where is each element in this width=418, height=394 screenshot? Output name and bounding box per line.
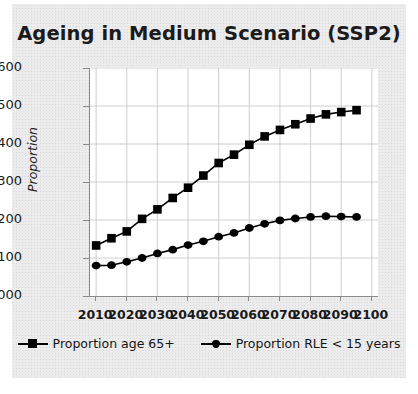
- chart-title: Ageing in Medium Scenario (SSP2): [0, 22, 418, 45]
- data-point-diamond: [291, 215, 300, 223]
- data-point-diamond: [306, 213, 315, 221]
- data-point-square: [276, 126, 285, 135]
- data-point-square: [230, 150, 239, 159]
- data-point-diamond: [92, 262, 101, 270]
- legend-label: Proportion RLE < 15 years: [236, 336, 401, 351]
- chart-figure: Ageing in Medium Scenario (SSP2) Proport…: [0, 0, 418, 394]
- plot-svg: [90, 68, 378, 296]
- data-point-square: [260, 132, 269, 141]
- data-point-diamond: [352, 213, 361, 221]
- y-tick-label: 0.000: [0, 287, 22, 302]
- data-point-diamond: [322, 212, 331, 220]
- data-point-square: [337, 108, 346, 117]
- data-point-square: [153, 205, 162, 214]
- legend-item-proportion-age-65-plus[interactable]: Proportion age 65+: [18, 336, 175, 351]
- y-axis-title: Proportion: [25, 110, 40, 210]
- x-axis-line: [89, 296, 378, 297]
- data-point-square: [245, 140, 254, 149]
- data-point-square: [184, 183, 193, 192]
- data-point-diamond: [214, 233, 223, 241]
- data-point-square: [306, 114, 315, 123]
- data-point-diamond: [153, 250, 162, 258]
- data-point-diamond: [260, 220, 269, 228]
- data-point-square: [352, 106, 361, 115]
- data-series: [92, 212, 361, 269]
- data-point-square: [92, 241, 101, 250]
- chart-legend: Proportion age 65+ Proportion RLE < 15 y…: [0, 336, 418, 351]
- legend-label: Proportion age 65+: [53, 336, 175, 351]
- y-tick-label: 0.200: [0, 211, 22, 226]
- y-tick-label: 0.400: [0, 135, 22, 150]
- x-tick-label: 2100: [348, 307, 394, 322]
- y-tick-label: 0.300: [0, 173, 22, 188]
- y-tick-label: 0.500: [0, 97, 22, 112]
- data-point-diamond: [337, 213, 346, 221]
- y-tick-label: 0.600: [0, 59, 22, 74]
- data-point-square: [107, 234, 116, 243]
- data-point-square: [214, 159, 223, 168]
- y-tick-label: 0.100: [0, 249, 22, 264]
- data-point-diamond: [245, 224, 254, 232]
- data-point-diamond: [199, 237, 208, 245]
- data-point-diamond: [168, 246, 177, 254]
- data-point-diamond: [107, 261, 116, 269]
- data-point-diamond: [122, 258, 131, 266]
- data-point-diamond: [276, 216, 285, 224]
- data-point-square: [168, 194, 177, 203]
- data-point-diamond: [184, 241, 193, 249]
- data-series-layer: [92, 106, 361, 270]
- legend-diamond-marker-icon: [201, 337, 231, 351]
- data-point-square: [138, 215, 147, 224]
- legend-item-proportion-rle-under-15[interactable]: Proportion RLE < 15 years: [201, 336, 401, 351]
- gridlines: [90, 68, 378, 296]
- plot-area: [89, 68, 378, 296]
- data-series: [92, 106, 361, 250]
- data-point-diamond: [230, 229, 239, 237]
- data-point-square: [322, 110, 331, 119]
- data-point-diamond: [138, 254, 147, 262]
- data-point-square: [122, 227, 131, 236]
- data-point-square: [291, 120, 300, 129]
- series-line: [96, 110, 356, 245]
- legend-square-marker-icon: [18, 337, 48, 351]
- data-point-square: [199, 171, 208, 180]
